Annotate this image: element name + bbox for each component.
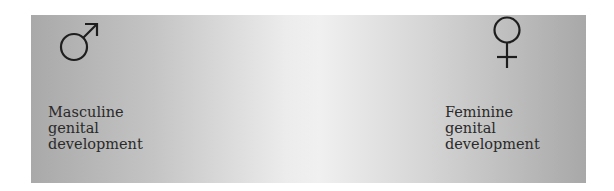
masculine-label: Masculine genital development — [48, 104, 143, 152]
male-symbol-icon — [56, 19, 102, 65]
feminine-label-line: Feminine — [445, 104, 540, 120]
masculine-label-line: Masculine — [48, 104, 143, 120]
feminine-label-line: development — [445, 136, 540, 152]
female-symbol-icon — [492, 15, 522, 69]
masculine-label-line: genital — [48, 120, 143, 136]
feminine-label-line: genital — [445, 120, 540, 136]
masculine-label-line: development — [48, 136, 143, 152]
feminine-label: Feminine genital development — [445, 104, 540, 152]
